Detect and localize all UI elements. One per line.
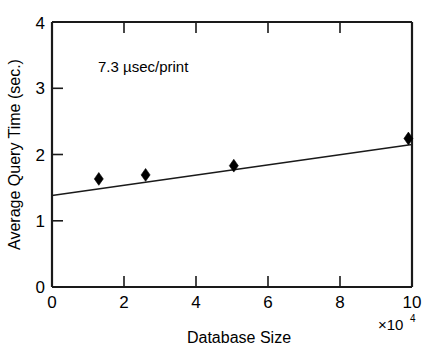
x-tick-label-6: 6 xyxy=(263,293,272,312)
y-axis-title: Average Query Time (sec.) xyxy=(6,59,23,250)
y-tick-labels: 0 1 2 3 4 xyxy=(36,14,45,298)
y-tick-label-2: 2 xyxy=(36,146,45,165)
x-axis-multiplier: ×10 4 xyxy=(378,313,416,333)
x-multiplier-exponent: 4 xyxy=(410,313,416,324)
x-axis-title: Database Size xyxy=(187,329,291,346)
chart-figure: 0 1 2 3 4 0 2 4 6 8 10 ×10 4 Database Si… xyxy=(0,0,438,347)
y-tick-label-3: 3 xyxy=(36,79,45,98)
y-tick-label-1: 1 xyxy=(36,212,45,231)
data-point-2 xyxy=(141,169,150,182)
x-tick-label-10: 10 xyxy=(403,293,422,312)
query-time-scatter-chart: 0 1 2 3 4 0 2 4 6 8 10 ×10 4 Database Si… xyxy=(0,0,438,347)
x-tick-label-2: 2 xyxy=(119,293,128,312)
x-tick-labels: 0 2 4 6 8 10 xyxy=(47,293,421,312)
x-multiplier-base: ×10 xyxy=(378,316,403,333)
annotation-rate-label: 7.3 µsec/print xyxy=(98,58,189,75)
x-tick-label-4: 4 xyxy=(191,293,200,312)
x-tick-label-0: 0 xyxy=(47,293,56,312)
y-tick-label-4: 4 xyxy=(36,14,45,33)
y-axis-ticks xyxy=(52,22,63,287)
data-point-1 xyxy=(94,173,103,186)
y-tick-label-0: 0 xyxy=(36,278,45,297)
x-tick-label-8: 8 xyxy=(335,293,344,312)
data-point-markers xyxy=(94,132,413,185)
